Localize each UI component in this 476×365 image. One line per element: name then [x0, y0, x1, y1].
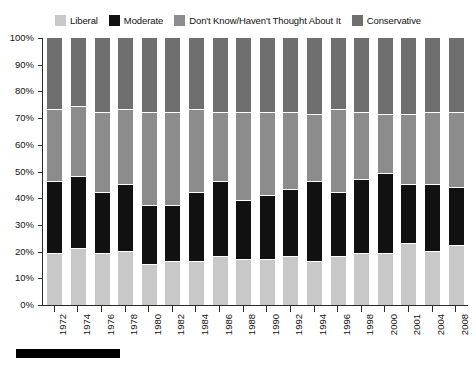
bar-segment[interactable]: [142, 265, 157, 305]
bar-2000[interactable]: [378, 38, 393, 305]
legend-item[interactable]: Moderate: [109, 15, 163, 26]
bar-segment[interactable]: [283, 113, 298, 190]
bar-segment[interactable]: [283, 38, 298, 113]
bar-1974[interactable]: [71, 38, 86, 305]
bar-segment[interactable]: [189, 193, 204, 262]
bar-segment[interactable]: [260, 113, 275, 196]
x-axis-tick-label: 1980: [153, 314, 163, 335]
bar-segment[interactable]: [71, 107, 86, 176]
bar-segment[interactable]: [354, 38, 369, 113]
bar-segment[interactable]: [118, 185, 133, 252]
bar-segment[interactable]: [165, 113, 180, 206]
bar-segment[interactable]: [354, 113, 369, 180]
bar-segment[interactable]: [260, 260, 275, 305]
bar-1980[interactable]: [142, 38, 157, 305]
bar-segment[interactable]: [213, 113, 228, 182]
bar-1996[interactable]: [331, 38, 346, 305]
bar-segment[interactable]: [189, 38, 204, 110]
bar-segment[interactable]: [260, 196, 275, 260]
bar-1982[interactable]: [165, 38, 180, 305]
bar-segment[interactable]: [142, 38, 157, 113]
bar-segment[interactable]: [449, 246, 464, 305]
bar-segment[interactable]: [165, 262, 180, 305]
bar-segment[interactable]: [165, 38, 180, 113]
bar-segment[interactable]: [236, 113, 251, 201]
bar-segment[interactable]: [118, 252, 133, 305]
bar-segment[interactable]: [425, 185, 440, 252]
bar-segment[interactable]: [189, 110, 204, 193]
bar-segment[interactable]: [47, 182, 62, 254]
bar-segment[interactable]: [307, 262, 322, 305]
bar-segment[interactable]: [401, 115, 416, 184]
bar-segment[interactable]: [425, 113, 440, 185]
bar-1972[interactable]: [47, 38, 62, 305]
legend-item[interactable]: Liberal: [55, 15, 98, 26]
bar-segment[interactable]: [71, 249, 86, 305]
bar-segment[interactable]: [142, 206, 157, 265]
bar-segment[interactable]: [142, 113, 157, 206]
bar-1998[interactable]: [354, 38, 369, 305]
bar-segment[interactable]: [71, 177, 86, 249]
bar-segment[interactable]: [331, 257, 346, 305]
bar-segment[interactable]: [236, 260, 251, 305]
bar-segment[interactable]: [283, 190, 298, 257]
bar-segment[interactable]: [236, 201, 251, 260]
bar-segment[interactable]: [71, 38, 86, 107]
legend-item[interactable]: Conservative: [352, 15, 421, 26]
bar-segment[interactable]: [236, 38, 251, 113]
x-axis-tick-label: 1998: [365, 314, 375, 335]
bar-segment[interactable]: [95, 193, 110, 254]
bar-segment[interactable]: [165, 206, 180, 262]
bar-segment[interactable]: [449, 113, 464, 188]
bar-segment[interactable]: [118, 110, 133, 185]
bar-segment[interactable]: [307, 182, 322, 262]
legend-item[interactable]: Don't Know/Haven't Thought About It: [174, 15, 341, 26]
x-axis-tick-label: 1988: [247, 314, 257, 335]
bar-segment[interactable]: [260, 38, 275, 113]
bar-segment[interactable]: [47, 254, 62, 305]
bar-segment[interactable]: [449, 188, 464, 247]
bar-segment[interactable]: [95, 113, 110, 193]
bar-segment[interactable]: [47, 38, 62, 110]
bar-segment[interactable]: [425, 38, 440, 113]
bar-segment[interactable]: [331, 38, 346, 110]
bar-segment[interactable]: [354, 180, 369, 255]
bar-segment[interactable]: [378, 174, 393, 254]
bar-segment[interactable]: [401, 244, 416, 305]
bar-segment[interactable]: [283, 257, 298, 305]
bar-2004[interactable]: [425, 38, 440, 305]
bar-segment[interactable]: [378, 115, 393, 174]
bar-segment[interactable]: [307, 115, 322, 182]
bar-segment[interactable]: [213, 38, 228, 113]
bar-2001[interactable]: [401, 38, 416, 305]
bar-segment[interactable]: [354, 254, 369, 305]
bar-segment[interactable]: [331, 193, 346, 257]
bar-segment[interactable]: [95, 254, 110, 305]
bar-1986[interactable]: [213, 38, 228, 305]
bar-segment[interactable]: [213, 182, 228, 257]
y-axis-tick-label: 90%: [15, 60, 34, 70]
bar-segment[interactable]: [95, 38, 110, 113]
bar-segment[interactable]: [213, 257, 228, 305]
bar-segment[interactable]: [378, 38, 393, 115]
y-axis-tick-label: 0%: [20, 300, 34, 310]
bar-1984[interactable]: [189, 38, 204, 305]
bar-segment[interactable]: [47, 110, 62, 182]
bar-1988[interactable]: [236, 38, 251, 305]
bar-segment[interactable]: [378, 254, 393, 305]
bar-segment[interactable]: [449, 38, 464, 113]
bar-1994[interactable]: [307, 38, 322, 305]
y-axis-tick-label: 10%: [15, 273, 34, 283]
bar-segment[interactable]: [307, 38, 322, 115]
bar-segment[interactable]: [118, 38, 133, 110]
bar-1976[interactable]: [95, 38, 110, 305]
bar-1978[interactable]: [118, 38, 133, 305]
bar-segment[interactable]: [425, 252, 440, 305]
bar-segment[interactable]: [331, 110, 346, 193]
bar-segment[interactable]: [401, 185, 416, 244]
bar-2008[interactable]: [449, 38, 464, 305]
bar-1990[interactable]: [260, 38, 275, 305]
bar-segment[interactable]: [189, 262, 204, 305]
bar-segment[interactable]: [401, 38, 416, 115]
bar-1992[interactable]: [283, 38, 298, 305]
